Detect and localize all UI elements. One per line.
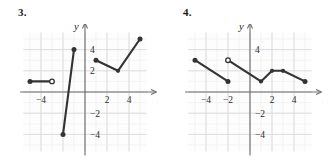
y-tick-label: −2: [255, 109, 265, 119]
y-tick-label: −2: [90, 109, 100, 119]
x-tick-label: 2: [105, 95, 110, 105]
problem-3-graph: xy−42442−2−4: [13, 24, 158, 160]
x-axis-letter: x: [322, 94, 323, 105]
y-axis-letter: y: [73, 24, 79, 32]
x-tick-label: −2: [223, 95, 233, 105]
y-tick-label: 2: [90, 66, 95, 76]
problem-3-svg: xy−42442−2−4: [13, 24, 158, 160]
y-axis-letter: y: [238, 24, 244, 32]
x-tick-label: −4: [36, 95, 46, 105]
problem-3: 3. xy−42442−2−4: [0, 0, 165, 164]
x-tick-label: 4: [292, 95, 297, 105]
x-tick-label: 2: [270, 95, 275, 105]
worksheet-page: 3. xy−42442−2−4 4. xy−4−2244−2−4: [0, 0, 331, 164]
y-tick-label: 4: [255, 45, 260, 55]
y-tick-label: −4: [255, 130, 265, 140]
x-tick-label: −4: [201, 95, 211, 105]
problem-4: 4. xy−4−2244−2−4: [165, 0, 331, 164]
y-tick-label: −4: [90, 130, 100, 140]
x-axis-letter: x: [157, 94, 158, 105]
x-tick-label: 4: [127, 95, 132, 105]
problem-3-number: 3.: [18, 6, 27, 18]
problem-4-number: 4.: [183, 6, 192, 18]
problem-4-graph: xy−4−2244−2−4: [178, 24, 323, 160]
problem-4-svg: xy−4−2244−2−4: [178, 24, 323, 160]
y-tick-label: 4: [90, 45, 95, 55]
